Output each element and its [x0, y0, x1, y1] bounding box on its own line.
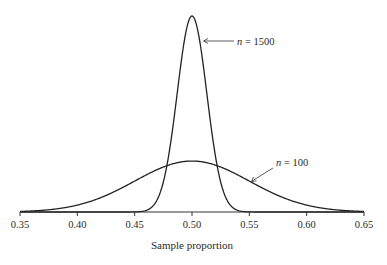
- annotation-label-n-1500: n = 1500: [237, 36, 274, 47]
- arrow-n-100: [252, 168, 273, 181]
- annotation-n-100: n = 100: [252, 157, 309, 182]
- x-axis-title: Sample proportion: [151, 239, 234, 251]
- curve-n-100: [20, 161, 364, 211]
- x-axis-tick-labels: 0.350.400.450.500.550.600.65: [11, 219, 373, 230]
- curves: [20, 16, 364, 212]
- x-tick-label: 0.40: [68, 219, 86, 230]
- annotation-label-n-100: n = 100: [276, 157, 308, 168]
- x-tick-label: 0.55: [240, 219, 258, 230]
- x-tick-label: 0.50: [183, 219, 201, 230]
- x-tick-label: 0.65: [355, 219, 373, 230]
- x-tick-label: 0.35: [11, 219, 29, 230]
- curve-n-1500: [20, 16, 364, 212]
- annotation-n-1500: n = 1500: [204, 36, 275, 47]
- x-tick-label: 0.45: [125, 219, 143, 230]
- sampling-distribution-chart: 0.350.400.450.500.550.600.65 Sample prop…: [0, 0, 387, 265]
- x-tick-label: 0.60: [297, 219, 315, 230]
